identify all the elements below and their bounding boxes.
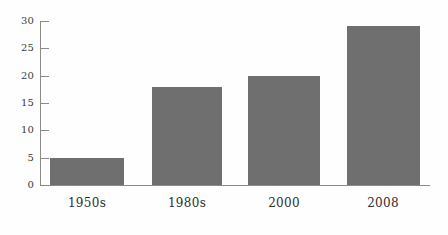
bar-1950s [50,158,124,185]
bar-2008 [347,26,420,185]
x-label-2008: 2008 [343,197,423,209]
y-tick-25 [40,48,49,49]
y-tick-label-0: 0 [10,180,34,190]
y-tick-label-5: 5 [10,153,34,163]
y-tick-30 [40,21,49,22]
bar-2000 [248,76,320,185]
bar-1980s [152,87,222,185]
x-label-1980s: 1980s [147,197,227,209]
y-tick-label-30: 30 [10,16,34,26]
y-tick-label-25: 25 [10,43,34,53]
x-label-2000: 2000 [244,197,324,209]
y-tick-label-15: 15 [10,98,34,108]
x-axis-line [40,185,430,186]
y-tick-10 [40,130,49,131]
y-tick-label-20: 20 [10,71,34,81]
y-tick-5 [40,158,49,159]
bar-chart: 30 25 20 15 10 5 0 1950s 1980s 2000 2008 [0,0,448,235]
y-tick-label-10: 10 [10,125,34,135]
x-label-1950s: 1950s [47,197,127,209]
y-tick-15 [40,103,49,104]
y-tick-20 [40,76,49,77]
plot-area: 30 25 20 15 10 5 0 1950s 1980s 2000 2008 [0,0,448,235]
